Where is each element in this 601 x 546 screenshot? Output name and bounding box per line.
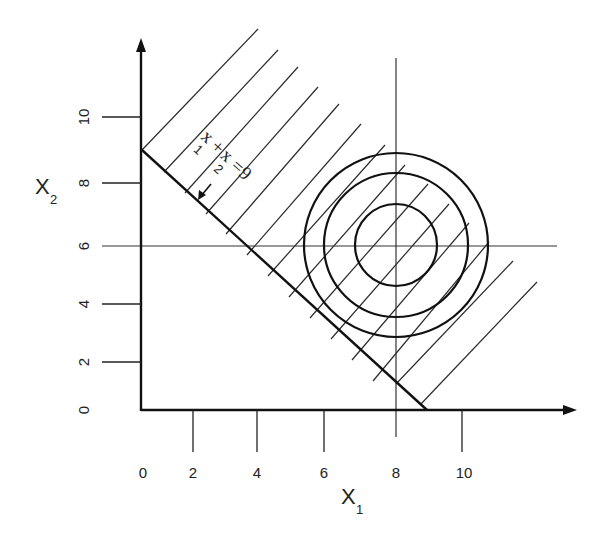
y-tick-0: 0 bbox=[75, 406, 92, 414]
y-axis-title: X 2 bbox=[35, 174, 57, 207]
y-axis-arrow-icon bbox=[136, 38, 146, 52]
x-tick-10: 10 bbox=[456, 464, 473, 481]
x-axis-arrow-icon bbox=[563, 405, 577, 415]
svg-text:X: X bbox=[341, 484, 356, 509]
constraint-direction-arrow-icon bbox=[198, 184, 211, 200]
svg-text:2: 2 bbox=[50, 192, 57, 207]
x-tick-4: 4 bbox=[253, 464, 261, 481]
y-tick-2: 2 bbox=[75, 358, 92, 366]
y-axis bbox=[102, 38, 146, 411]
y-tick-4: 4 bbox=[75, 300, 92, 308]
y-tick-10: 10 bbox=[75, 109, 92, 126]
y-tick-labels: 0 2 4 6 8 10 bbox=[75, 109, 92, 415]
svg-text:X: X bbox=[35, 174, 50, 199]
svg-text:1: 1 bbox=[356, 502, 363, 517]
svg-text:2: 2 bbox=[211, 161, 226, 177]
y-tick-8: 8 bbox=[75, 179, 92, 187]
svg-text:1: 1 bbox=[191, 141, 206, 157]
x-axis-title: X 1 bbox=[341, 484, 363, 517]
hatch-lines bbox=[142, 29, 537, 405]
x-tick-8: 8 bbox=[392, 464, 400, 481]
x-tick-labels: 0 2 4 6 8 10 bbox=[139, 464, 473, 481]
x-axis bbox=[141, 405, 577, 452]
x-tick-6: 6 bbox=[320, 464, 328, 481]
lp-diagram: 0 2 4 6 8 10 0 2 4 6 8 10 X 1 X 2 x 1 + … bbox=[0, 0, 601, 546]
y-tick-6: 6 bbox=[75, 242, 92, 250]
x-tick-0: 0 bbox=[139, 464, 147, 481]
svg-text:=9: =9 bbox=[227, 155, 256, 184]
x-tick-2: 2 bbox=[189, 464, 197, 481]
